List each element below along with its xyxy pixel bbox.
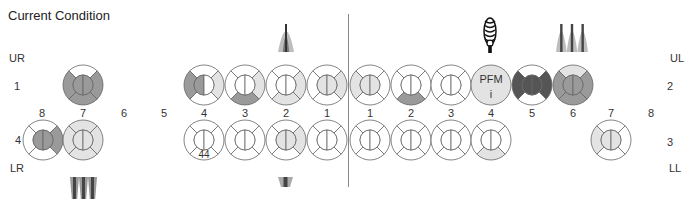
root-UL6-icon bbox=[556, 24, 588, 52]
tooth-LL1[interactable] bbox=[350, 120, 390, 160]
tooth-LR3[interactable] bbox=[225, 120, 265, 160]
tooth-UL6[interactable] bbox=[553, 65, 593, 105]
crown-label: PFM bbox=[479, 73, 502, 85]
tooth-UR3[interactable] bbox=[225, 65, 265, 105]
root-UL4-implant-icon bbox=[484, 18, 496, 53]
tooth-UL5[interactable] bbox=[512, 65, 552, 105]
tooth-UR1[interactable] bbox=[307, 65, 347, 105]
tooth-UR7[interactable] bbox=[63, 65, 103, 105]
tooth-LR8[interactable] bbox=[23, 120, 63, 160]
crown-sub: i bbox=[490, 88, 492, 100]
root-UR2-icon bbox=[278, 24, 294, 52]
dental-chart: 44PFMi bbox=[0, 0, 693, 206]
tooth-LL2[interactable] bbox=[391, 120, 431, 160]
tooth-UR4[interactable] bbox=[184, 65, 224, 105]
tooth-UL2[interactable] bbox=[391, 65, 431, 105]
tooth-LL3[interactable] bbox=[431, 120, 471, 160]
tooth-note: 44 bbox=[198, 149, 210, 160]
tooth-UR2[interactable] bbox=[266, 65, 306, 105]
tooth-UL3[interactable] bbox=[431, 65, 471, 105]
tooth-LL4[interactable] bbox=[471, 120, 511, 160]
tooth-LR4[interactable]: 44 bbox=[184, 120, 224, 160]
root-LR7-icon bbox=[70, 177, 97, 199]
tooth-UL4-crown[interactable]: PFMi bbox=[471, 65, 511, 105]
tooth-LR7[interactable] bbox=[63, 120, 103, 160]
tooth-LR1[interactable] bbox=[307, 120, 347, 160]
tooth-LL7[interactable] bbox=[591, 120, 631, 160]
root-LR2-icon bbox=[278, 177, 293, 187]
tooth-LR2[interactable] bbox=[266, 120, 306, 160]
tooth-UL1[interactable] bbox=[350, 65, 390, 105]
